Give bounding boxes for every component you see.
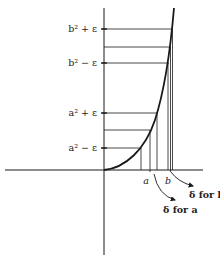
label-b2-minus-eps: b² − ε: [68, 57, 97, 68]
label-b2-plus-eps: b² + ε: [68, 23, 97, 34]
label-delta-for-a: δ for a: [163, 204, 198, 215]
arrow-delta-for-b: [171, 172, 193, 186]
label-a2-minus-eps: a² − ε: [69, 142, 97, 153]
label-delta-for-b: δ for b: [189, 189, 220, 200]
label-a2-plus-eps: a² + ε: [69, 107, 97, 118]
epsilon-delta-diagram: b² + ε b² − ε a² + ε a² − ε a b δ for b …: [0, 0, 220, 259]
parabola-curve: [104, 8, 174, 170]
label-a: a: [143, 175, 149, 186]
label-b: b: [165, 175, 171, 186]
